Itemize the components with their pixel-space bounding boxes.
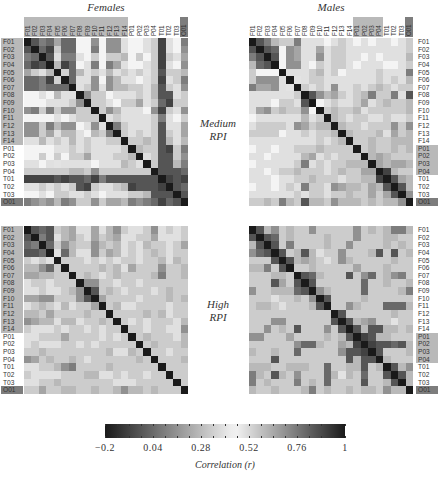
heatmap-cell [338, 272, 345, 280]
heatmap-cell [113, 160, 120, 168]
column-header-label: P01 [353, 25, 360, 36]
heatmap-cell [46, 91, 53, 99]
heatmap-cell [361, 175, 368, 183]
heatmap-cell [406, 198, 413, 206]
heatmap-cell [69, 249, 76, 257]
heatmap-cell [361, 264, 368, 272]
heatmap-cell [181, 226, 188, 234]
heatmap-cell [84, 168, 91, 176]
heatmap-cell [128, 114, 135, 122]
heatmap-cell [54, 318, 61, 326]
row-label: T01 [416, 363, 438, 371]
heatmap-cell [31, 226, 38, 234]
heatmap-cell [286, 333, 293, 341]
heatmap-cell [136, 175, 143, 183]
heatmap-cell [166, 348, 173, 356]
column-header-label: O01 [405, 25, 412, 36]
heatmap-cell [31, 99, 38, 107]
heatmap-cell [76, 318, 83, 326]
heatmap-cell [406, 38, 413, 46]
heatmap-cell [136, 241, 143, 249]
heatmap-cell [256, 386, 263, 394]
heatmap-cell [256, 287, 263, 295]
heatmap-cell [383, 137, 390, 145]
heatmap-cell [294, 318, 301, 326]
heatmap-cell [84, 234, 91, 242]
heatmap-cell [24, 153, 31, 161]
heatmap-cell [61, 130, 68, 138]
heatmap-cell [136, 76, 143, 84]
heatmap-cell [249, 114, 256, 122]
heatmap-cell [316, 386, 323, 394]
heatmap-cell [121, 130, 128, 138]
heatmap-cell [309, 318, 316, 326]
heatmap-cell [324, 363, 331, 371]
heatmap-cell [24, 69, 31, 77]
heatmap-cell [383, 363, 390, 371]
heatmap-cell [324, 302, 331, 310]
heatmap-cell [406, 145, 413, 153]
heatmap-cell [338, 198, 345, 206]
heatmap-cell [376, 325, 383, 333]
heatmap-cell [128, 122, 135, 130]
heatmap-cell [331, 130, 338, 138]
heatmap-cell [383, 130, 390, 138]
heatmap-cell [39, 168, 46, 176]
heatmap-cell [99, 264, 106, 272]
heatmap-cell [383, 302, 390, 310]
heatmap-cell [46, 356, 53, 364]
heatmap-cell [84, 279, 91, 287]
heatmap-cell [113, 91, 120, 99]
heatmap-cell [84, 363, 91, 371]
heatmap-cell [31, 241, 38, 249]
heatmap-cell [301, 272, 308, 280]
heatmap-cell [264, 183, 271, 191]
heatmap-cell [76, 198, 83, 206]
heatmap-cell [91, 107, 98, 115]
row-label: P01 [1, 145, 23, 153]
heatmap-cell [316, 287, 323, 295]
heatmap-cell [99, 160, 106, 168]
heatmap-cell [24, 183, 31, 191]
heatmap-cell [31, 310, 38, 318]
heatmap-cell [46, 145, 53, 153]
heatmap-cell [271, 198, 278, 206]
heatmap-cell [346, 122, 353, 130]
heatmap-cell [301, 175, 308, 183]
heatmap-cell [249, 287, 256, 295]
heatmap-cell [84, 107, 91, 115]
heatmap-cell [376, 46, 383, 54]
column-header: P02 [136, 17, 143, 37]
heatmap-cell [76, 61, 83, 69]
heatmap-cell [181, 183, 188, 191]
heatmap-cell [151, 295, 158, 303]
heatmap-cell [151, 69, 158, 77]
heatmap-cell [158, 318, 165, 326]
heatmap-cell [24, 99, 31, 107]
heatmap-cell [113, 61, 120, 69]
heatmap-cell [398, 137, 405, 145]
heatmap-cell [316, 191, 323, 199]
heatmap-cell [264, 130, 271, 138]
heatmap-cell [338, 348, 345, 356]
heatmap-cell [331, 198, 338, 206]
heatmap-cell [106, 99, 113, 107]
heatmap-cell [76, 379, 83, 387]
heatmap-cell [128, 130, 135, 138]
heatmap-cell [271, 325, 278, 333]
heatmap-cell [166, 130, 173, 138]
heatmap-cell [376, 356, 383, 364]
heatmap-cell [316, 249, 323, 257]
heatmap-cell [151, 38, 158, 46]
heatmap-cell [39, 91, 46, 99]
heatmap-cell [24, 310, 31, 318]
heatmap-cell [46, 241, 53, 249]
heatmap-cell [99, 310, 106, 318]
heatmap-cell [256, 137, 263, 145]
heatmap-cell [391, 114, 398, 122]
heatmap-cell [331, 46, 338, 54]
heatmap-cell [331, 183, 338, 191]
heatmap-cell [84, 241, 91, 249]
heatmap-cell [264, 99, 271, 107]
heatmap-cell [324, 130, 331, 138]
